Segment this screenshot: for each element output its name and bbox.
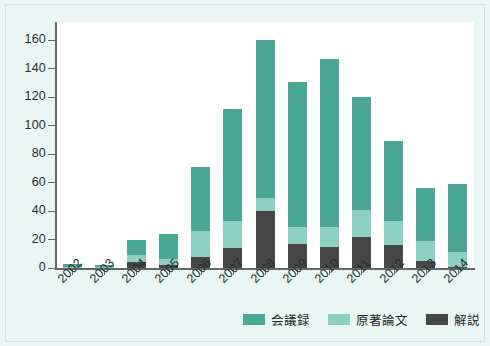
y-axis-tick-label: 20 <box>2 232 46 246</box>
y-axis-tick-mark <box>48 182 55 183</box>
chart-legend: 会議録原著論文解説 <box>243 310 480 329</box>
bar-group[interactable] <box>256 22 275 268</box>
legend-swatch <box>426 314 448 325</box>
y-axis-tick-label: 0 <box>2 260 46 274</box>
legend-label: 原著論文 <box>356 310 408 329</box>
chart-figure: 020406080100120140160 200220032004200520… <box>0 0 490 346</box>
bar-segment[interactable] <box>159 234 178 260</box>
y-axis-tick-mark <box>48 154 55 155</box>
bar-segment[interactable] <box>256 198 275 211</box>
bar-group[interactable] <box>352 22 371 268</box>
y-axis-tick-label: 40 <box>2 203 46 217</box>
bar-segment[interactable] <box>448 184 467 252</box>
y-axis-tick-mark <box>48 125 55 126</box>
y-axis-tick-mark <box>48 40 55 41</box>
bar-group[interactable] <box>384 22 403 268</box>
bar-segment[interactable] <box>352 97 371 209</box>
y-axis-tick-label: 160 <box>2 32 46 46</box>
legend-label: 解説 <box>454 310 480 329</box>
y-axis-tick-mark <box>48 97 55 98</box>
y-axis-tick-label: 100 <box>2 118 46 132</box>
bar-group[interactable] <box>159 22 178 268</box>
bar-segment[interactable] <box>384 141 403 221</box>
bar-segment[interactable] <box>288 227 307 244</box>
bar-segment[interactable] <box>191 167 210 231</box>
bar-segment[interactable] <box>320 227 339 247</box>
bar-segment[interactable] <box>416 188 435 241</box>
bar-segment[interactable] <box>320 59 339 227</box>
y-axis-tick-label: 60 <box>2 175 46 189</box>
y-axis-tick-mark <box>48 68 55 69</box>
bar-segment[interactable] <box>256 40 275 198</box>
bar-group[interactable] <box>223 22 242 268</box>
bar-group[interactable] <box>416 22 435 268</box>
bar-group[interactable] <box>95 22 114 268</box>
bar-group[interactable] <box>320 22 339 268</box>
y-axis-tick-label: 120 <box>2 89 46 103</box>
legend-item[interactable]: 原著論文 <box>328 310 408 329</box>
bar-group[interactable] <box>127 22 146 268</box>
y-axis-tick-label: 80 <box>2 146 46 160</box>
bar-segment[interactable] <box>352 210 371 237</box>
bar-segment[interactable] <box>384 221 403 245</box>
bar-group[interactable] <box>63 22 82 268</box>
legend-label: 会議録 <box>271 310 310 329</box>
bar-segment[interactable] <box>191 231 210 257</box>
y-axis-tick-mark <box>48 211 55 212</box>
bar-segment[interactable] <box>127 240 146 256</box>
bar-segment[interactable] <box>223 109 242 221</box>
legend-swatch <box>243 314 265 325</box>
bar-group[interactable] <box>191 22 210 268</box>
y-axis-tick-mark <box>48 239 55 240</box>
bar-segment[interactable] <box>288 82 307 227</box>
plot-area <box>56 22 474 268</box>
y-axis-tick-label: 140 <box>2 61 46 75</box>
legend-swatch <box>328 314 350 325</box>
y-axis-tick-labels: 020406080100120140160 <box>0 0 46 346</box>
legend-item[interactable]: 解説 <box>426 310 480 329</box>
legend-item[interactable]: 会議録 <box>243 310 310 329</box>
y-axis-tick-mark <box>48 268 55 269</box>
bar-group[interactable] <box>288 22 307 268</box>
bar-group[interactable] <box>448 22 467 268</box>
bar-segment[interactable] <box>223 221 242 248</box>
